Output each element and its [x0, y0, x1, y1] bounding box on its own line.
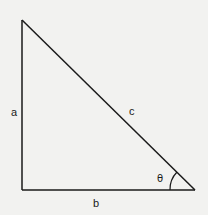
label-side-a: a: [11, 107, 17, 118]
label-side-b: b: [93, 198, 99, 209]
label-hypotenuse-c: c: [129, 106, 135, 117]
right-triangle-diagram: [0, 0, 208, 215]
angle-theta-arc: [170, 172, 177, 190]
label-angle-theta: θ: [157, 174, 163, 184]
hypotenuse-c-line: [22, 20, 195, 190]
